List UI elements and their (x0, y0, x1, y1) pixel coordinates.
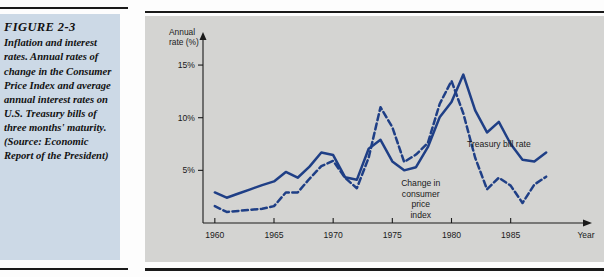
figure-caption-panel: FIGURE 2-3 Inflation and interest rates.… (0, 14, 120, 260)
series-label-1: Change in (401, 178, 440, 188)
chart-text-labels: 5%10%15%196019651970197519801985Annualra… (169, 27, 595, 240)
series-label-0: Treasury bill rate (467, 139, 531, 149)
chart-panel: 5%10%15%196019651970197519801985Annualra… (145, 16, 604, 262)
y-tick-label: 5% (183, 165, 196, 175)
y-tick-label: 15% (178, 60, 196, 70)
x-tick-label: 1965 (264, 230, 283, 240)
series-label-1: price (411, 199, 430, 209)
y-axis-arrow (200, 32, 207, 40)
x-axis-title: Year (578, 230, 595, 240)
x-tick-label: 1980 (442, 230, 461, 240)
x-tick-label: 1985 (501, 230, 520, 240)
figure-root: FIGURE 2-3 Inflation and interest rates.… (0, 0, 604, 277)
x-tick-label: 1975 (383, 230, 402, 240)
y-axis-title-line2: rate (%) (169, 37, 199, 47)
line-chart: 5%10%15%196019651970197519801985Annualra… (145, 16, 604, 262)
series-label-1: index (410, 210, 431, 220)
chart-top-rule (145, 11, 604, 13)
x-tick-label: 1970 (324, 230, 343, 240)
y-tick-label: 10% (178, 113, 196, 123)
figure-number: FIGURE 2-3 (4, 20, 112, 34)
chart-bottom-rule (145, 268, 604, 271)
series-label-1: consumer (402, 189, 440, 199)
figure-caption-text: Inflation and interest rates. Annual rat… (4, 36, 112, 163)
chart-tick-marks (198, 65, 511, 223)
y-axis-title-line1: Annual (169, 27, 195, 37)
x-axis-arrow (583, 220, 592, 227)
chart-axes (200, 32, 593, 227)
caption-top-rule (0, 7, 128, 9)
x-tick-label: 1960 (205, 230, 224, 240)
caption-bottom-rule (0, 268, 128, 270)
